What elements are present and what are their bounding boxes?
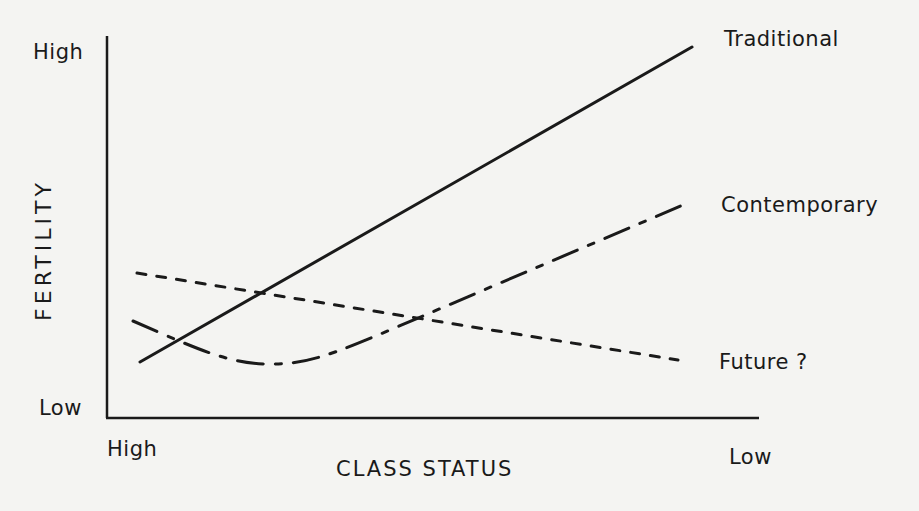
series-traditional-line [140,47,692,362]
y-axis-title: FERTILITY [31,179,56,321]
chart-canvas [0,0,919,511]
x-axis-title: CLASS STATUS [336,457,513,481]
series-label-future: Future ? [719,350,808,374]
x-tick-low: Low [729,445,772,469]
series-label-contemporary: Contemporary [721,193,878,217]
series-label-traditional: Traditional [724,27,839,51]
y-tick-low: Low [39,396,82,420]
y-tick-high: High [33,40,83,64]
x-tick-high: High [107,437,157,461]
